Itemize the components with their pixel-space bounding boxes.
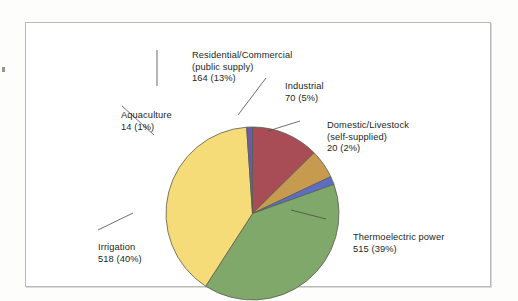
leader-line-irrigation [98,213,133,230]
slice-label-domestic-line2: (self-supplied) [327,132,409,144]
slice-label-industrial: Industrial 70 (5%) [285,81,324,104]
leader-line-domestic [268,121,300,131]
slice-label-aquaculture-line1: Aquaculture [121,110,172,122]
slice-label-irrigation-line1: Irrigation [98,242,142,254]
slice-label-industrial-line1: Industrial [285,81,324,93]
slice-label-residential-value: 164 (13%) [192,73,292,85]
slice-label-thermoelectric-line1: Thermoelectric power [353,232,444,244]
slice-label-irrigation: Irrigation 518 (40%) [98,242,142,265]
slice-label-thermoelectric: Thermoelectric power 515 (39%) [353,232,444,255]
slice-label-domestic-value: 20 (2%) [327,143,409,155]
slice-label-domestic-line1: Domestic/Livestock [327,120,409,132]
slice-label-thermoelectric-value: 515 (39%) [353,244,444,256]
slice-label-residential: Residential/Commercial (public supply) 1… [192,50,292,85]
slice-label-aquaculture-value: 14 (1%) [121,122,172,134]
slice-label-residential-line2: (public supply) [192,62,292,74]
scan-artifact-left [2,67,5,72]
slice-label-industrial-value: 70 (5%) [285,93,324,105]
leader-line-thermoelectric [291,210,326,219]
slice-label-residential-line1: Residential/Commercial [192,50,292,62]
figure-frame: Residential/Commercial (public supply) 1… [25,22,491,287]
slice-label-aquaculture: Aquaculture 14 (1%) [121,110,172,133]
slice-label-domestic: Domestic/Livestock (self-supplied) 20 (2… [327,120,409,155]
figure-screenshot: Residential/Commercial (public supply) 1… [0,0,518,301]
slice-label-irrigation-value: 518 (40%) [98,254,142,266]
